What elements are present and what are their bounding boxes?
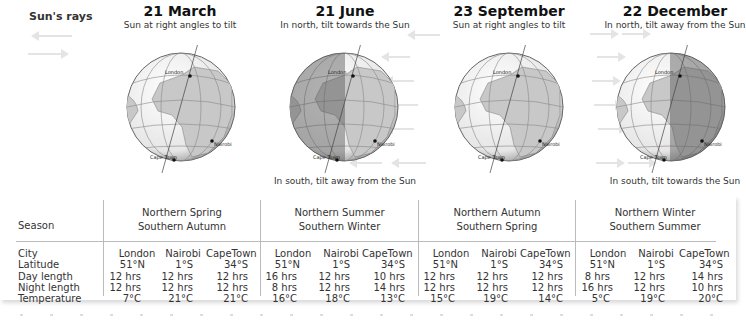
svg-text:London: London [165, 69, 183, 75]
night-length-value: 12 hrs [463, 282, 508, 293]
city-nairobi: Nairobi [158, 248, 208, 259]
day-length-value: 14 hrs [678, 271, 723, 282]
season-line-south: Southern Summer [576, 220, 734, 234]
temperature-value: 18°C [305, 293, 350, 304]
temperature-value: 14°C [518, 293, 563, 304]
season-header-summer: Northern Summer Southern Winter [261, 206, 418, 234]
panel-note-december-north: In north, tilt away from the Sun [575, 20, 746, 30]
season-line-south: Southern Spring [419, 220, 575, 234]
panel-date-september: 23 September [424, 3, 594, 19]
row-label-night-length: Night length [18, 282, 80, 293]
city-london: London [426, 248, 476, 259]
night-length-value: 12 hrs [148, 282, 193, 293]
night-length-value: 12 hrs [96, 282, 141, 293]
city-nairobi: Nairobi [474, 248, 524, 259]
svg-text:Cape Town: Cape Town [640, 154, 667, 161]
night-length-value: 16 hrs [568, 282, 613, 293]
city-london: London [268, 248, 318, 259]
panel-date-march: 21 March [95, 3, 265, 19]
svg-text:Nairobi: Nairobi [542, 141, 560, 147]
right-arrow-icon [28, 53, 62, 55]
day-length-value: 10 hrs [360, 271, 405, 282]
city-capetown: CapeTown [206, 248, 256, 259]
svg-text:London: London [493, 69, 511, 75]
latitude-value: 1°S [148, 259, 193, 270]
ray-arrow-icon [414, 34, 440, 36]
row-label-city: City [18, 248, 38, 259]
latitude-value: 34°S [360, 259, 405, 270]
latitude-value: 51°N [255, 259, 300, 270]
day-length-value: 8 hrs [565, 271, 610, 282]
city-capetown: CapeTown [362, 248, 412, 259]
ray-arrow-icon [622, 33, 644, 35]
season-header-winter: Northern Winter Southern Summer [576, 206, 734, 234]
day-length-value: 12 hrs [96, 271, 141, 282]
cropped-text-remnant [20, 314, 720, 316]
svg-text:Cape Town: Cape Town [478, 154, 505, 161]
latitude-value: 1°S [305, 259, 350, 270]
seasons-table: Season City Latitude Day length Night le… [0, 196, 736, 300]
globe-september: London Nairobi Cape Town [450, 45, 568, 175]
panel-note-june-south: In south, tilt away from the Sun [245, 176, 445, 186]
temperature-value: 20°C [678, 293, 723, 304]
row-label-temperature: Temperature [18, 293, 81, 304]
panel-date-june: 21 June [260, 3, 430, 19]
night-length-value: 12 hrs [620, 282, 665, 293]
latitude-value: 1°S [620, 259, 665, 270]
day-length-value: 12 hrs [203, 271, 248, 282]
left-arrow-icon [38, 35, 72, 37]
svg-text:London: London [655, 69, 673, 75]
globe-june: London Nairobi Cape Town [285, 45, 403, 175]
temperature-value: 15°C [410, 293, 455, 304]
season-line-north: Northern Winter [576, 206, 734, 220]
city-nairobi: Nairobi [631, 248, 681, 259]
day-length-value: 12 hrs [463, 271, 508, 282]
row-label-latitude: Latitude [18, 259, 59, 270]
svg-text:Cape Town: Cape Town [150, 154, 177, 161]
night-length-value: 12 hrs [410, 282, 455, 293]
city-london: London [112, 248, 162, 259]
night-length-value: 12 hrs [305, 282, 350, 293]
city-capetown: CapeTown [679, 248, 729, 259]
svg-text:Nairobi: Nairobi [214, 141, 232, 147]
latitude-value: 34°S [518, 259, 563, 270]
temperature-value: 5°C [565, 293, 610, 304]
season-line-south: Southern Winter [261, 220, 418, 234]
temperature-value: 16°C [252, 293, 297, 304]
day-length-value: 12 hrs [305, 271, 350, 282]
globe-december: London Nairobi Cape Town [612, 45, 730, 175]
night-length-value: 12 hrs [203, 282, 248, 293]
temperature-value: 13°C [360, 293, 405, 304]
latitude-value: 1°S [463, 259, 508, 270]
night-length-value: 12 hrs [518, 282, 563, 293]
row-label-season: Season [18, 220, 54, 231]
ray-arrow-icon [592, 80, 614, 82]
temperature-value: 19°C [463, 293, 508, 304]
latitude-value: 51°N [570, 259, 615, 270]
night-length-value: 10 hrs [678, 282, 723, 293]
day-length-value: 16 hrs [252, 271, 297, 282]
season-line-north: Northern Autumn [419, 206, 575, 220]
latitude-value: 34°S [203, 259, 248, 270]
temperature-value: 7°C [96, 293, 141, 304]
header-divider [16, 241, 716, 242]
latitude-value: 51°N [100, 259, 145, 270]
city-capetown: CapeTown [520, 248, 570, 259]
city-nairobi: Nairobi [316, 248, 366, 259]
season-line-north: Northern Summer [261, 206, 418, 220]
temperature-value: 21°C [203, 293, 248, 304]
panel-date-december: 22 December [590, 3, 746, 19]
panel-note-december-south: In south, tilt towards the Sun [575, 176, 746, 186]
latitude-value: 51°N [413, 259, 458, 270]
season-line-south: Southern Autumn [104, 220, 260, 234]
night-length-value: 14 hrs [360, 282, 405, 293]
city-london: London [583, 248, 633, 259]
globe-march: London Nairobi Cape Town [122, 45, 240, 175]
season-header-spring: Northern Spring Southern Autumn [104, 206, 260, 234]
ray-arrow-icon [590, 33, 612, 35]
night-length-value: 8 hrs [252, 282, 297, 293]
day-length-value: 12 hrs [148, 271, 193, 282]
day-length-value: 12 hrs [410, 271, 455, 282]
latitude-value: 34°S [678, 259, 723, 270]
row-label-day-length: Day length [18, 271, 73, 282]
